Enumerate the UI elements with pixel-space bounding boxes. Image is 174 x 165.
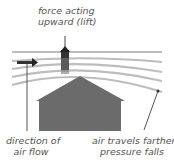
- pressure-pointer: [144, 90, 160, 131]
- pressure-label: air travels farther; pressure falls: [92, 135, 172, 157]
- lift-label-line1: force acting: [38, 5, 94, 16]
- pressure-label-line2: pressure falls: [92, 146, 172, 157]
- lift-arrow: [60, 36, 70, 74]
- flow-label: direction of air flow: [6, 135, 56, 157]
- lift-label: force acting upward (lift): [38, 5, 94, 27]
- flow-label-line1: direction of: [6, 135, 56, 146]
- pressure-label-line1: air travels farther;: [92, 135, 172, 146]
- flow-label-line2: air flow: [6, 146, 56, 157]
- flow-arrow: [17, 58, 38, 131]
- house: [36, 76, 125, 131]
- lift-label-line2: upward (lift): [38, 16, 94, 27]
